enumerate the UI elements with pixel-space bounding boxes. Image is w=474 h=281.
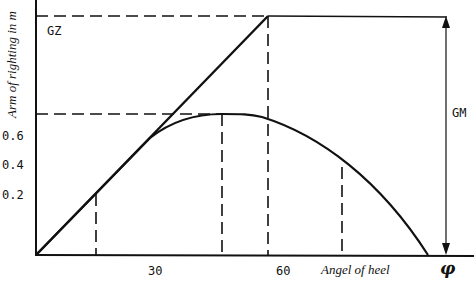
gm-arrow-head-up-icon: [442, 16, 450, 28]
y-tick-0-4: 0.4: [2, 158, 24, 172]
x-axis-label: Angel of heel: [321, 262, 390, 278]
y-axis-label: Arm of righting in m: [4, 11, 20, 118]
gz-curve: [36, 114, 428, 255]
gz-label: GZ: [47, 24, 61, 38]
x-tick-60: 60: [276, 264, 290, 278]
gm-arrow-head-down-icon: [442, 243, 450, 255]
x-tick-30: 30: [148, 264, 162, 278]
stability-diagram: [0, 0, 474, 281]
y-tick-0-2: 0.2: [2, 188, 24, 202]
gm-label: GM: [452, 106, 466, 120]
phi-symbol: φ: [440, 258, 455, 278]
x-axis: [35, 255, 474, 256]
y-tick-0-6: 0.6: [2, 129, 24, 143]
gm-level-solid-line: [268, 16, 447, 17]
